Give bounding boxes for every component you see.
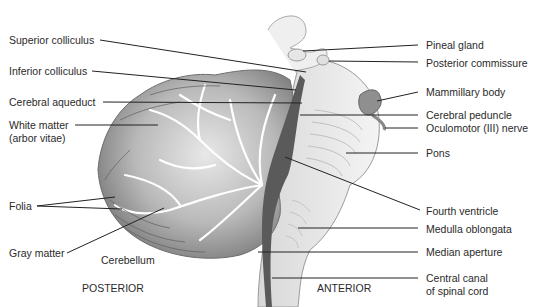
- label-pons: Pons: [426, 147, 450, 159]
- label-anterior: ANTERIOR: [317, 282, 371, 294]
- label-gray-matter: Gray matter: [9, 247, 64, 259]
- label-median-aperture: Median aperture: [426, 246, 502, 258]
- label-inferior-colliculus: Inferior colliculus: [9, 65, 87, 77]
- label-cerebellum: Cerebellum: [101, 254, 155, 266]
- label-white-matter: White matter: [9, 119, 69, 131]
- label-posterior-commissure: Posterior commissure: [426, 57, 528, 69]
- label-superior-colliculus: Superior colliculus: [9, 34, 94, 46]
- label-cerebral-peduncle: Cerebral peduncle: [426, 109, 512, 121]
- label-medulla-oblongata: Medulla oblongata: [426, 223, 512, 235]
- posterior-commissure-shape: [317, 55, 329, 65]
- label-oculomotor-nerve: Oculomotor (III) nerve: [426, 122, 528, 134]
- label-cerebral-aqueduct: Cerebral aqueduct: [9, 96, 95, 108]
- label-pineal-gland: Pineal gland: [426, 39, 484, 51]
- label-posterior: POSTERIOR: [82, 282, 144, 294]
- label-central-canal: Central canal: [426, 272, 488, 284]
- label-white-matter-sub: (arbor vitae): [9, 132, 66, 144]
- label-fourth-ventricle: Fourth ventricle: [426, 205, 498, 217]
- label-mammillary-body: Mammillary body: [426, 86, 505, 98]
- label-central-canal-sub: of spinal cord: [426, 285, 488, 297]
- label-folia: Folia: [9, 200, 32, 212]
- anatomy-diagram: Superior colliculus Inferior colliculus …: [0, 0, 533, 307]
